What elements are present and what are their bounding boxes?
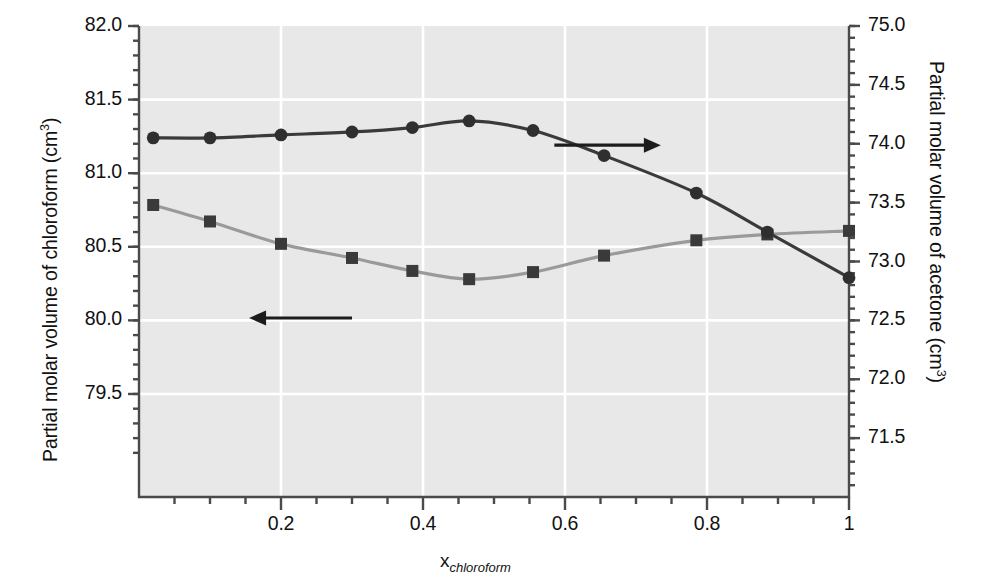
chart-figure: 82.081.581.080.580.079.5 75.074.574.073.… <box>0 0 985 584</box>
right-axis-title: Partial molar volume of acetone (cm3) <box>925 61 949 383</box>
plot-area-background <box>139 26 849 497</box>
x-axis-title-subscript: chloroform <box>450 560 511 575</box>
x-tick-label: 0.6 <box>525 512 605 535</box>
left-axis-title-superscript: 3 <box>38 124 52 131</box>
right-axis-title-text: Partial molar volume of acetone (cm <box>926 61 948 370</box>
left-tick-label: 82.0 <box>48 13 122 36</box>
left-axis-title: Partial molar volume of chloroform (cm3) <box>38 118 62 462</box>
x-tick-label: 0.8 <box>667 512 747 535</box>
x-tick-label: 0.4 <box>383 512 463 535</box>
x-axis-title-base: x <box>440 550 450 571</box>
left-axis-title-text: Partial molar volume of chloroform (cm <box>39 131 61 462</box>
x-axis-title: xchloroform <box>440 550 511 575</box>
x-tick-label: 0.2 <box>241 512 321 535</box>
right-tick-label: 71.5 <box>868 425 942 448</box>
left-axis-title-tail: ) <box>39 118 61 124</box>
left-tick-label: 81.5 <box>48 87 122 110</box>
right-axis-title-tail: ) <box>926 376 948 382</box>
right-tick-label: 75.0 <box>868 13 942 36</box>
x-tick-label: 1 <box>809 512 889 535</box>
